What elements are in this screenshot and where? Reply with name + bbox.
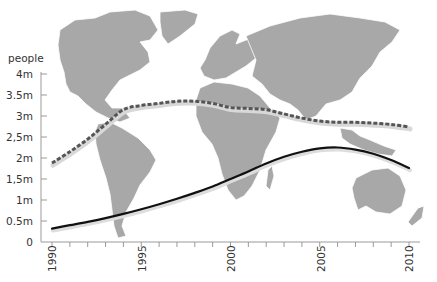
y-tick-label: 0 — [26, 236, 33, 248]
y-tick-label: 1m — [16, 194, 33, 206]
y-tick-label: 4m — [16, 68, 33, 80]
line-chart: people 4m 3.5m 3m 2,5m 2m 1,5m 1m 0.5m 0… — [0, 0, 437, 282]
x-tick-label: 1990 — [46, 245, 58, 272]
x-tick-label: 1995 — [136, 245, 148, 272]
australia-shape — [352, 168, 406, 214]
new-zealand-shape — [408, 206, 424, 226]
x-tick-label: 2010 — [403, 245, 415, 272]
x-tick-label: 2005 — [315, 245, 327, 272]
y-tick-label: 0.5m — [6, 215, 33, 227]
y-tick-label: 2m — [16, 152, 33, 164]
madagascar-shape — [266, 166, 274, 190]
y-axis: people 4m 3.5m 3m 2,5m 2m 1,5m 1m 0.5m 0 — [6, 52, 47, 248]
x-tick-label: 2000 — [225, 245, 237, 272]
asia-shape — [246, 14, 400, 120]
greenland-shape — [160, 10, 198, 44]
x-axis: 1990 1995 2000 2005 2010 — [41, 242, 420, 272]
y-tick-label: 3.5m — [6, 89, 33, 101]
y-tick-label: 2,5m — [6, 131, 33, 143]
y-tick-label: 3m — [16, 110, 33, 122]
y-axis-unit-label: people — [8, 52, 44, 64]
y-tick-label: 1,5m — [6, 173, 33, 185]
